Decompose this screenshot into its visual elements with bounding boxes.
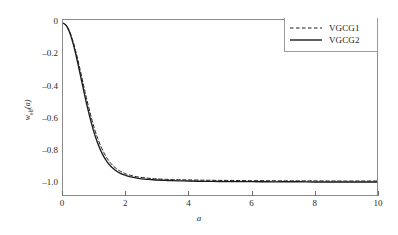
y-axis-title-suffix: (a) [23, 100, 32, 109]
legend-item-vgcg1[interactable]: VGCG1 [285, 22, 377, 34]
legend-line-sample [289, 24, 323, 32]
y-axis-title-main: w [23, 115, 32, 120]
y-tick-label: –1.0 [42, 178, 58, 187]
y-axis-title: weff(a) [22, 85, 36, 135]
x-tick-label: 8 [313, 199, 318, 208]
legend-line-sample [289, 36, 323, 44]
chart-figure: 0–0.2–0.4–0.6–0.8–1.0 weff(a) 0246810 a … [0, 0, 398, 235]
x-tick-mark [315, 191, 316, 196]
y-tick-label: –0.2 [42, 49, 58, 58]
x-tick-label: 10 [374, 199, 383, 208]
y-axis-title-sub: eff [28, 109, 34, 115]
legend-label: VGCG2 [323, 35, 360, 45]
y-tick-label: –0.8 [42, 146, 58, 155]
x-tick-label: 6 [249, 199, 254, 208]
x-axis-title: a [0, 213, 398, 223]
x-tick-label: 2 [123, 199, 128, 208]
x-tick-label: 0 [60, 199, 65, 208]
y-tick-label: –0.4 [42, 82, 58, 91]
y-tick-label: –0.6 [42, 114, 58, 123]
legend-label: VGCG1 [323, 23, 360, 33]
legend: VGCG1VGCG2 [284, 18, 378, 52]
x-tick-mark [378, 191, 379, 196]
legend-item-vgcg2[interactable]: VGCG2 [285, 34, 377, 46]
y-tick-label: 0 [54, 17, 59, 26]
x-tick-mark [252, 191, 253, 196]
x-tick-mark [188, 191, 189, 196]
x-tick-label: 4 [186, 199, 191, 208]
x-tick-mark [62, 191, 63, 196]
x-tick-mark [125, 191, 126, 196]
